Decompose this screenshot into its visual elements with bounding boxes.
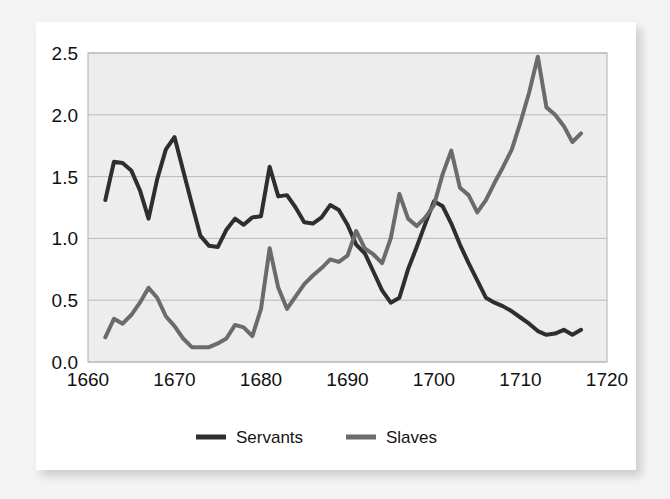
y-axis-tick-labels: 0.00.51.01.52.02.5 <box>52 43 78 373</box>
y-tick-label: 1.5 <box>52 167 78 188</box>
chart-legend: ServantsSlaves <box>196 428 437 447</box>
x-tick-label: 1700 <box>413 369 455 390</box>
y-tick-label: 2.0 <box>52 105 78 126</box>
x-tick-label: 1690 <box>326 369 368 390</box>
x-tick-label: 1720 <box>586 369 628 390</box>
x-tick-label: 1680 <box>240 369 282 390</box>
x-tick-label: 1660 <box>67 369 109 390</box>
figure-page: 0.00.51.01.52.02.5 166016701680169017001… <box>0 0 670 499</box>
line-chart: 0.00.51.01.52.02.5 166016701680169017001… <box>0 0 670 499</box>
x-tick-label: 1710 <box>499 369 541 390</box>
legend-label-slaves: Slaves <box>386 428 437 447</box>
y-tick-label: 1.0 <box>52 228 78 249</box>
x-axis-tick-labels: 1660167016801690170017101720 <box>67 369 628 390</box>
x-tick-label: 1670 <box>153 369 195 390</box>
y-tick-label: 0.5 <box>52 290 78 311</box>
y-tick-label: 2.5 <box>52 43 78 64</box>
legend-label-servants: Servants <box>236 428 303 447</box>
